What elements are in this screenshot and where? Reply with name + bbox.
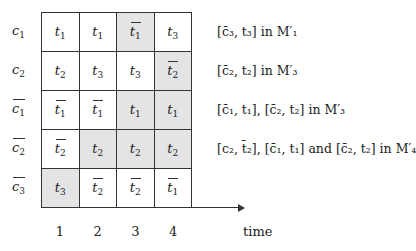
row-label: c1	[12, 90, 36, 129]
row-label: c3	[12, 168, 36, 207]
row-label: c2	[12, 51, 36, 90]
column-label: 3	[117, 224, 155, 239]
grid-cell: t2	[42, 52, 80, 91]
time-axis-label: time	[243, 224, 272, 239]
grid-cell: t1	[117, 91, 155, 130]
grid-cell: t3	[117, 52, 155, 91]
column-label: 4	[154, 224, 192, 239]
grid-cell: t1	[80, 91, 118, 130]
grid-cell: t3	[80, 52, 118, 91]
grid-cell: t3	[155, 13, 193, 52]
time-axis-arrow-icon	[238, 204, 245, 212]
schedule-grid: t1t1t1t3t2t3t3t2t1t1t1t1t2t2t2t2t3t2t2t1	[41, 12, 192, 208]
grid-cell: t1	[42, 13, 80, 52]
grid-cell: t1	[117, 13, 155, 52]
grid-cell: t1	[42, 91, 80, 130]
grid-cell: t2	[155, 52, 193, 91]
grid-cell: t1	[155, 169, 193, 208]
grid-cell: t2	[117, 130, 155, 169]
column-label: 1	[41, 224, 79, 239]
grid-cell: t2	[80, 169, 118, 208]
row-annotation: [c₂, t̄₂], [c̄₁, t₁] and [c̄₂, t₂] in M′…	[217, 129, 416, 168]
grid-cell: t2	[80, 130, 118, 169]
grid-cell: t1	[155, 91, 193, 130]
column-label: 2	[79, 224, 117, 239]
grid-cell: t2	[117, 169, 155, 208]
grid-cell: t2	[42, 130, 80, 169]
grid-cell: t1	[80, 13, 118, 52]
time-axis	[192, 207, 240, 208]
row-annotation: [c̄₃, t₃] in M′₁	[217, 12, 297, 51]
row-label: c1	[12, 12, 36, 51]
row-annotation: [c̄₁, t₁], [c̄₂, t₂] in M′₃	[217, 90, 345, 129]
row-annotation: [c̄₂, t₂] in M′₃	[217, 51, 297, 90]
row-label: c2	[12, 129, 36, 168]
grid-cell: t3	[42, 169, 80, 208]
grid-cell: t2	[155, 130, 193, 169]
